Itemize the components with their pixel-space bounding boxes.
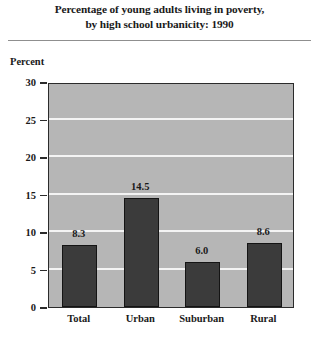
bar-value-label: 6.0 xyxy=(171,244,233,257)
y-axis-tick-mark xyxy=(40,120,47,122)
bar xyxy=(185,262,220,307)
y-axis-tick-mark xyxy=(40,82,47,84)
y-axis-tick-mark xyxy=(40,307,47,309)
x-axis: TotalUrbanSuburbanRural xyxy=(48,312,294,332)
y-axis-tick-label: 20 xyxy=(26,151,37,164)
x-axis-tick-label: Suburban xyxy=(171,312,233,326)
y-axis-tick-mark xyxy=(40,270,47,272)
gridline xyxy=(49,118,293,120)
bar xyxy=(247,243,282,308)
y-axis-tick-label: 25 xyxy=(26,114,37,127)
bar xyxy=(124,198,159,307)
title-line-1: Percentage of young adults living in pov… xyxy=(6,2,313,17)
bar-value-label: 8.3 xyxy=(48,227,110,240)
y-axis-tick-label: 5 xyxy=(31,264,36,277)
y-axis-tick-mark xyxy=(40,157,47,159)
bar-value-label: 8.6 xyxy=(233,225,295,238)
page-title: Percentage of young adults living in pov… xyxy=(6,2,313,31)
y-axis-tick-label: 15 xyxy=(26,189,37,202)
gridline xyxy=(49,155,293,157)
bar-value-label: 14.5 xyxy=(110,180,172,193)
y-axis-tick-label: 0 xyxy=(31,301,36,314)
x-axis-tick-label: Rural xyxy=(233,312,295,326)
bar xyxy=(62,245,97,307)
title-line-2: by high school urbanicity: 1990 xyxy=(6,17,313,32)
x-axis-tick-label: Urban xyxy=(110,312,172,326)
y-axis: 051015202530 xyxy=(0,0,48,353)
y-axis-tick-mark xyxy=(40,195,47,197)
bar-chart-plot-area xyxy=(48,83,294,308)
y-axis-tick-label: 30 xyxy=(26,76,37,89)
y-axis-tick-mark xyxy=(40,232,47,234)
x-axis-tick-label: Total xyxy=(48,312,110,326)
y-axis-tick-label: 10 xyxy=(26,226,37,239)
gridline xyxy=(49,193,293,195)
title-divider xyxy=(8,40,311,41)
